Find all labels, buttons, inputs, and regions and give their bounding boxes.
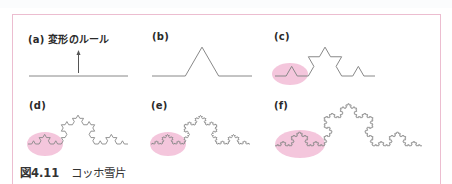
koch-figure <box>0 0 452 184</box>
figure-caption: 図4.11コッホ雪片 <box>20 164 126 180</box>
panel-label-b: (b) <box>152 31 169 42</box>
panel-e <box>150 115 250 156</box>
panel-a <box>29 50 128 76</box>
panel-c <box>272 47 375 85</box>
caption-title: コッホ雪片 <box>71 166 126 180</box>
panel-label-c: (c) <box>274 31 290 42</box>
panel-label-a: (a) 変形のルール <box>28 31 109 46</box>
koch-curve <box>152 47 252 76</box>
highlight-ellipse <box>272 63 308 85</box>
panel-b <box>152 47 252 76</box>
caption-number: 図4.11 <box>20 166 59 180</box>
arrowhead-icon <box>77 50 81 55</box>
panel-label-f: (f) <box>274 100 288 111</box>
panel-f <box>275 104 422 158</box>
panel-label-d: (d) <box>29 100 46 111</box>
panel-label-e: (e) <box>151 100 168 111</box>
panel-d <box>27 115 128 156</box>
